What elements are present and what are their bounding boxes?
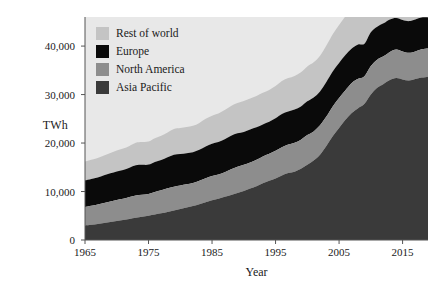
legend-item: Asia Pacific [96, 80, 185, 95]
y-axis-tick-label: 10,000 [20, 186, 75, 198]
y-axis-title: TWh [10, 118, 68, 133]
legend-item-label: Asia Pacific [116, 82, 172, 94]
legend-item: Rest of world [96, 26, 185, 41]
x-axis-tick-label: 1975 [119, 246, 179, 258]
legend-swatch-icon [96, 63, 109, 76]
y-axis-tick-label: 0 [20, 234, 75, 246]
y-axis-tick-label: 40,000 [20, 40, 75, 52]
x-axis-tick-label: 1995 [246, 246, 306, 258]
legend-item: Europe [96, 44, 185, 59]
x-axis-title: Year [85, 265, 428, 280]
legend-swatch-icon [96, 27, 109, 40]
legend-swatch-icon [96, 45, 109, 58]
legend-item-label: North America [116, 64, 185, 76]
x-axis-tick-label: 2005 [309, 246, 369, 258]
legend-item-label: Europe [116, 46, 149, 58]
x-axis-tick-label: 1985 [182, 246, 242, 258]
legend-swatch-icon [96, 81, 109, 94]
y-axis-tick-label: 20,000 [20, 137, 75, 149]
x-axis-tick-label: 2015 [373, 246, 433, 258]
y-axis-tick-label: 30,000 [20, 89, 75, 101]
chart-legend: Rest of worldEuropeNorth AmericaAsia Pac… [96, 26, 185, 95]
legend-item: North America [96, 62, 185, 77]
legend-item-label: Rest of world [116, 28, 179, 40]
x-axis-tick-label: 1965 [55, 246, 115, 258]
stacked-area-chart: TWh Year 010,00020,00030,00040,000 19651… [0, 0, 447, 286]
